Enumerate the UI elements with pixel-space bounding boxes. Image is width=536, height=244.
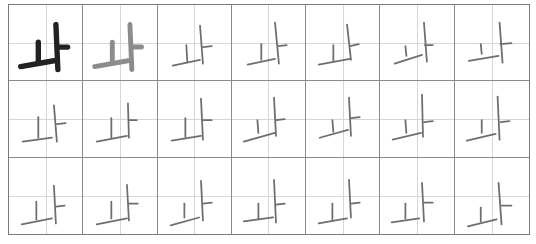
stroke bbox=[257, 120, 258, 133]
character-glyph-pencil bbox=[9, 158, 82, 234]
stroke bbox=[499, 23, 502, 63]
practice-cell-pencil bbox=[306, 5, 380, 81]
character-glyph-pencil bbox=[158, 5, 231, 80]
practice-cell-model bbox=[9, 5, 83, 81]
stroke bbox=[56, 205, 65, 206]
stroke bbox=[54, 185, 56, 223]
character-glyph-pencil bbox=[380, 158, 453, 234]
practice-cell-pencil bbox=[232, 158, 306, 234]
stroke bbox=[500, 121, 509, 122]
stroke bbox=[497, 97, 499, 140]
stroke bbox=[276, 203, 285, 204]
stroke bbox=[406, 46, 407, 56]
character-glyph-pencil bbox=[380, 81, 453, 156]
stroke bbox=[276, 119, 285, 120]
stroke bbox=[186, 45, 187, 62]
practice-cell-trace bbox=[83, 5, 157, 81]
character-glyph-pencil bbox=[232, 81, 305, 156]
stroke bbox=[406, 120, 407, 133]
character-glyph-pencil bbox=[158, 81, 231, 156]
practice-cell-pencil bbox=[158, 158, 232, 234]
stroke bbox=[351, 118, 360, 119]
stroke bbox=[349, 98, 351, 136]
practice-cell-pencil bbox=[9, 81, 83, 157]
character-glyph-model bbox=[9, 5, 82, 80]
stroke bbox=[500, 43, 511, 44]
stroke bbox=[424, 121, 433, 122]
character-glyph-pencil bbox=[306, 158, 379, 234]
stroke bbox=[97, 218, 127, 224]
stroke bbox=[498, 182, 501, 224]
stroke bbox=[201, 99, 203, 140]
stroke bbox=[23, 138, 52, 142]
practice-cell-pencil bbox=[455, 158, 529, 234]
practice-cell-pencil bbox=[380, 5, 454, 81]
character-glyph-pencil bbox=[306, 81, 379, 156]
practice-cell-pencil bbox=[9, 158, 83, 234]
stroke bbox=[201, 180, 203, 220]
stroke bbox=[319, 59, 350, 65]
practice-cell-pencil bbox=[83, 158, 157, 234]
stroke bbox=[127, 184, 129, 220]
handwriting-practice-sheet bbox=[8, 4, 530, 235]
character-glyph-pencil bbox=[158, 158, 231, 234]
practice-cell-pencil bbox=[232, 5, 306, 81]
stroke bbox=[468, 219, 497, 226]
practice-cell-pencil bbox=[83, 81, 157, 157]
character-glyph-pencil bbox=[232, 158, 305, 234]
practice-cell-pencil bbox=[380, 81, 454, 157]
practice-cell-pencil bbox=[158, 81, 232, 157]
character-glyph-trace bbox=[83, 5, 156, 80]
character-glyph-pencil bbox=[83, 158, 156, 234]
stroke bbox=[275, 23, 279, 64]
stroke bbox=[347, 25, 351, 60]
character-glyph-pencil bbox=[380, 5, 453, 80]
stroke bbox=[171, 136, 200, 141]
stroke bbox=[170, 217, 198, 225]
stroke bbox=[274, 179, 276, 222]
stroke bbox=[278, 45, 287, 46]
stroke bbox=[422, 95, 423, 137]
practice-cell-pencil bbox=[455, 5, 529, 81]
stroke bbox=[172, 60, 199, 66]
stroke bbox=[95, 61, 128, 67]
character-glyph-pencil bbox=[83, 81, 156, 156]
stroke bbox=[57, 123, 66, 124]
stroke bbox=[274, 98, 276, 136]
character-glyph-pencil bbox=[455, 5, 529, 80]
stroke bbox=[21, 61, 54, 67]
stroke bbox=[203, 202, 212, 203]
character-glyph-pencil bbox=[9, 81, 82, 156]
stroke bbox=[480, 44, 481, 54]
stroke bbox=[351, 202, 360, 203]
character-glyph-pencil bbox=[455, 81, 529, 156]
character-glyph-pencil bbox=[455, 158, 529, 234]
character-glyph-pencil bbox=[306, 5, 379, 80]
stroke bbox=[200, 26, 203, 64]
stroke bbox=[244, 133, 275, 142]
practice-cell-pencil bbox=[306, 158, 380, 234]
practice-cell-pencil bbox=[306, 81, 380, 157]
stroke bbox=[467, 134, 496, 141]
practice-cell-pencil bbox=[232, 81, 306, 157]
stroke bbox=[349, 179, 351, 217]
stroke bbox=[350, 44, 359, 46]
practice-cell-pencil bbox=[380, 158, 454, 234]
character-glyph-pencil bbox=[232, 5, 305, 80]
stroke bbox=[395, 55, 422, 64]
stroke bbox=[424, 23, 427, 62]
stroke bbox=[203, 46, 212, 47]
practice-cell-pencil bbox=[455, 81, 529, 157]
practice-grid bbox=[9, 5, 529, 234]
stroke bbox=[393, 133, 421, 140]
stroke bbox=[469, 56, 499, 61]
practice-cell-pencil bbox=[158, 5, 232, 81]
stroke bbox=[333, 120, 334, 132]
